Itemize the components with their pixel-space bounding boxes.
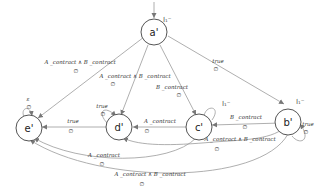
edge-b-e-guard: A _contract ∧ B _contract bbox=[113, 171, 186, 178]
edge-e-e-guard: ε bbox=[27, 96, 30, 102]
edge-a-c-guard: B _contract bbox=[155, 84, 189, 91]
edge-a-d: A _contract ∧ B _contract ∅ bbox=[98, 45, 171, 115]
edge-d-e: true ∅ bbox=[42, 118, 107, 134]
edge-d-d-output: ∅ bbox=[101, 111, 106, 117]
edge-a-d-guard: A _contract ∧ B _contract bbox=[98, 73, 171, 80]
state-diagram: I₁⁻ I₁⁻ I₁⁻ A _contract ∧ B _contract ∅ … bbox=[0, 0, 332, 196]
edge-d-e-guard: true bbox=[67, 118, 79, 124]
edge-d-e-output: ∅ bbox=[69, 128, 74, 134]
edge-a-b-guard: true bbox=[212, 58, 224, 64]
edge-b-c: B _contract ∅ bbox=[212, 114, 281, 130]
edge-d-d-guard: true bbox=[96, 103, 108, 109]
edge-a-e-output: ∅ bbox=[74, 68, 79, 74]
edge-c-d-output: ∅ bbox=[145, 128, 150, 134]
state-c-label: c' bbox=[195, 122, 203, 133]
state-c[interactable]: c' bbox=[186, 114, 212, 140]
state-e[interactable]: e' bbox=[16, 115, 42, 141]
edge-e-e-output: ∅ bbox=[27, 104, 32, 110]
initial-label-b: I₁⁻ bbox=[296, 98, 305, 106]
edge-a-d-output: ∅ bbox=[111, 81, 116, 87]
edge-c-e: A _contract ∅ bbox=[34, 138, 196, 167]
state-d-label: d' bbox=[114, 122, 123, 133]
edge-c-d: A _contract ∅ bbox=[133, 118, 188, 134]
edge-b-b-guard: true bbox=[302, 121, 314, 127]
state-a-label: a' bbox=[150, 27, 159, 38]
edge-b-d-guard: A _contract ∧ B _contract bbox=[203, 136, 276, 143]
initial-mark-c: I₁⁻ bbox=[222, 100, 231, 108]
edge-a-b-output: ∅ bbox=[214, 66, 219, 72]
edge-b-c-guard: B _contract bbox=[229, 114, 263, 121]
edge-c-e-guard: A _contract bbox=[87, 152, 121, 159]
edge-a-c-output: ∅ bbox=[177, 92, 182, 98]
edge-e-e: ε ∅ bbox=[23, 96, 32, 117]
initial-label-c: I₁⁻ bbox=[222, 100, 231, 108]
edge-b-e-output: ∅ bbox=[140, 181, 145, 187]
initial-mark-b: I₁⁻ bbox=[296, 98, 305, 106]
state-d[interactable]: d' bbox=[106, 114, 132, 140]
edge-b-b-output: ∅ bbox=[304, 129, 309, 135]
edge-c-d-guard: A _contract bbox=[143, 118, 177, 125]
edge-b-c-output: ∅ bbox=[243, 124, 248, 130]
initial-label-a: I₁⁻ bbox=[163, 16, 172, 24]
state-e-label: e' bbox=[25, 123, 34, 134]
state-b[interactable]: b' bbox=[275, 109, 301, 135]
edge-a-e-guard: A _contract ∧ B _contract bbox=[43, 59, 116, 66]
edge-a-c: B _contract ∅ bbox=[155, 45, 196, 115]
state-b-label: b' bbox=[283, 117, 292, 128]
edge-b-d-output: ∅ bbox=[215, 146, 220, 152]
state-a[interactable]: a' bbox=[141, 19, 167, 45]
